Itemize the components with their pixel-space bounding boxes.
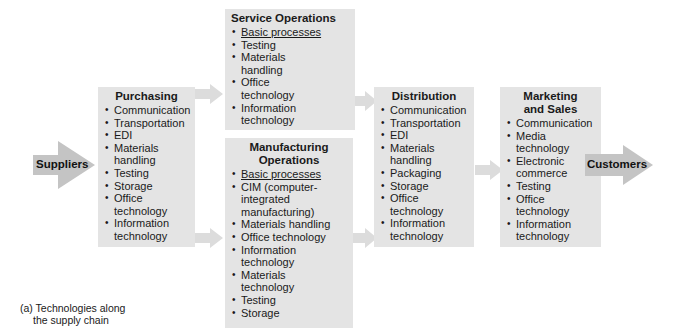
list-item: Communication [506,117,595,130]
list-item: Storage [104,180,189,193]
purchasing-list: Communication Transportation EDI Materia… [104,104,189,243]
list-item: Communication [380,104,468,117]
marketing-list: Communication Media technology Electroni… [506,117,595,243]
manufacturing-list: Basic processes CIM (computer-integrated… [231,168,347,319]
list-item: Information technology [231,102,311,127]
list-item: Information technology [104,217,189,242]
service-title: Service Operations [231,12,349,25]
list-item: Packaging [380,167,468,180]
list-item: Media technology [506,130,581,155]
list-item: EDI [380,129,468,142]
list-item: Communication [104,104,189,117]
list-item: Information technology [506,218,581,243]
customers-arrow: Customers [585,145,653,185]
distribution-list: Communication Transportation EDI Materia… [380,104,468,243]
list-item: Office technology [104,192,189,217]
manufacturing-operations-box: Manufacturing Operations Basic processes… [225,138,353,328]
list-item: Information technology [380,217,460,242]
list-item: Materials technology [231,269,316,294]
customers-label: Customers [587,158,647,170]
list-item: Basic processes [231,168,347,181]
list-item: Office technology [380,192,460,217]
list-item: EDI [104,129,189,142]
service-list: Basic processes Testing Materials handli… [231,26,349,127]
list-item: Office technology [231,231,347,244]
list-item: Testing [231,294,347,307]
suppliers-arrow: Suppliers [33,141,95,189]
distribution-box: Distribution Communication Transportatio… [374,87,474,247]
manufacturing-title: Manufacturing Operations [231,141,347,167]
purchasing-box: Purchasing Communication Transportation … [98,87,195,247]
list-item: Materials handling [104,142,189,167]
list-item: Electronic commerce [506,155,581,180]
list-item: Materials handling [231,51,311,76]
list-item: Information technology [231,244,316,269]
list-item: Testing [506,180,595,193]
list-item: Storage [380,180,468,193]
arrow-right-icon [195,84,223,104]
purchasing-title: Purchasing [104,90,189,103]
marketing-title: Marketing and Sales [506,90,595,116]
list-item: Materials handling [380,142,450,167]
arrow-right-icon [475,160,503,180]
list-item: Storage [231,307,347,320]
service-operations-box: Service Operations Basic processes Testi… [225,9,355,130]
arrow-right-icon [195,228,223,248]
list-item: Testing [104,167,189,180]
list-item: Office technology [506,193,581,218]
figure-caption: (a) Technologies along the supply chain [20,302,125,326]
list-item: Materials handling [231,218,347,231]
list-item: Testing [231,39,349,52]
list-item: CIM (computer-integrated manufacturing) [231,181,321,219]
distribution-title: Distribution [380,90,468,103]
suppliers-label: Suppliers [36,158,88,170]
list-item: Office technology [231,76,311,101]
list-item: Transportation [104,117,189,130]
list-item: Transportation [380,117,468,130]
list-item: Basic processes [231,26,349,39]
